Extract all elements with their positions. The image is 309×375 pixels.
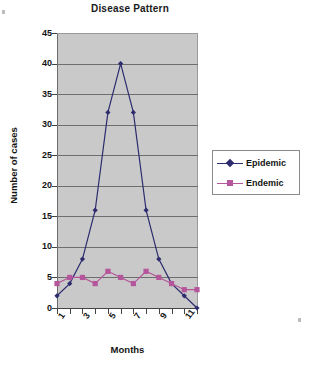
series-line <box>57 64 197 308</box>
square-marker-icon <box>156 275 161 280</box>
legend-item-endemic: Endemic <box>213 174 299 192</box>
legend-label-endemic: Endemic <box>246 178 284 188</box>
square-marker-icon <box>227 180 233 186</box>
diamond-marker-icon <box>131 110 136 115</box>
square-marker-icon <box>105 269 110 274</box>
square-marker-icon <box>118 275 123 280</box>
square-marker-icon <box>93 281 98 286</box>
square-marker-icon <box>54 281 59 286</box>
scan-artifact-left <box>2 10 5 14</box>
diamond-marker-icon <box>143 208 148 213</box>
square-marker-icon <box>80 275 85 280</box>
legend-swatch-epidemic <box>217 157 243 169</box>
diamond-marker-icon <box>80 257 85 262</box>
square-marker-icon <box>67 275 72 280</box>
square-marker-icon <box>131 281 136 286</box>
scan-artifact-right <box>298 318 301 322</box>
series-line <box>57 271 197 289</box>
diamond-marker-icon <box>93 208 98 213</box>
diamond-marker-icon <box>156 257 161 262</box>
square-marker-icon <box>194 287 199 292</box>
diamond-marker-icon <box>105 110 110 115</box>
legend-box: Epidemic Endemic <box>212 150 300 195</box>
square-marker-icon <box>169 281 174 286</box>
legend-swatch-endemic <box>217 177 243 189</box>
disease-pattern-chart: Disease Pattern 051015202530354045 Numbe… <box>0 0 309 375</box>
legend-item-epidemic: Epidemic <box>213 154 299 172</box>
diamond-marker-icon <box>226 159 234 167</box>
square-marker-icon <box>143 269 148 274</box>
diamond-marker-icon <box>118 61 123 66</box>
legend-label-epidemic: Epidemic <box>246 158 286 168</box>
square-marker-icon <box>182 287 187 292</box>
series-epidemic <box>54 61 199 311</box>
